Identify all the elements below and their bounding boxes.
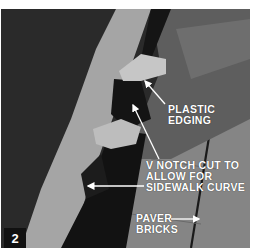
label-line: SIDEWALK CURVE bbox=[146, 182, 245, 193]
scene-illustration bbox=[1, 9, 250, 248]
label-plastic-edging: PLASTIC EDGING bbox=[168, 104, 215, 126]
step-number-badge: 2 bbox=[4, 228, 26, 248]
label-v-notch: V NOTCH CUT TO ALLOW FOR SIDEWALK CURVE bbox=[146, 160, 245, 193]
label-line: BRICKS bbox=[136, 224, 178, 235]
label-paver-bricks: PAVER BRICKS bbox=[136, 213, 178, 235]
instruction-photo: PLASTIC EDGING V NOTCH CUT TO ALLOW FOR … bbox=[1, 9, 250, 248]
label-line: EDGING bbox=[168, 115, 215, 126]
